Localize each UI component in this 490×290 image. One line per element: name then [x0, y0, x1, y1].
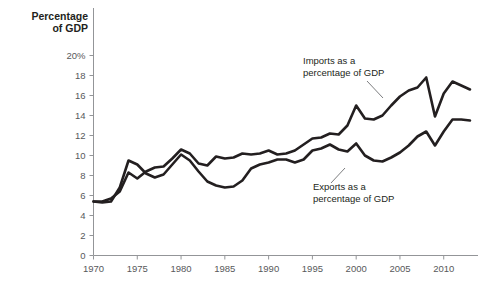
y-axis-ticks: 02468101214161820%	[66, 50, 93, 261]
y-tick-label: 10	[75, 150, 86, 161]
exports-annotation-line2: percentage of GDP	[313, 193, 394, 204]
chart-container: Percentage of GDP 02468101214161820% 197…	[0, 0, 490, 290]
x-tick-label: 2010	[433, 263, 454, 274]
y-tick-label: 0	[80, 250, 85, 261]
y-tick-label: 4	[80, 210, 85, 221]
x-axis-ticks: 197019751980198519901995200020052010	[83, 256, 454, 274]
imports-annotation-leader	[367, 81, 383, 98]
y-axis-title-line2: of GDP	[52, 22, 88, 34]
x-tick-label: 2005	[389, 263, 410, 274]
y-tick-label: 18	[75, 70, 86, 81]
x-tick-label: 2000	[346, 263, 367, 274]
x-tick-label: 1975	[127, 263, 148, 274]
imports-annotation-line1: Imports as a	[303, 55, 356, 66]
y-axis-title-line1: Percentage	[31, 10, 88, 22]
line-chart: Percentage of GDP 02468101214161820% 197…	[0, 0, 490, 290]
x-tick-label: 1995	[302, 263, 323, 274]
x-tick-label: 1985	[214, 263, 235, 274]
y-tick-label: 14	[75, 110, 86, 121]
y-tick-label: 6	[80, 190, 85, 201]
y-tick-label: 8	[80, 170, 85, 181]
x-tick-label: 1970	[83, 263, 104, 274]
imports-annotation-line2: percentage of GDP	[303, 67, 384, 78]
y-tick-label: 12	[75, 130, 86, 141]
x-tick-label: 1980	[170, 263, 191, 274]
y-tick-label: 16	[75, 90, 86, 101]
exports-line	[94, 120, 471, 203]
y-tick-label: 20%	[66, 50, 86, 61]
x-tick-label: 1990	[258, 263, 279, 274]
exports-annotation-line1: Exports as a	[313, 181, 367, 192]
y-tick-label: 2	[80, 230, 85, 241]
